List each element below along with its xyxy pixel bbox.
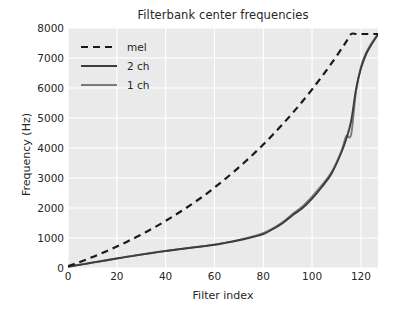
chart-title: Filterbank center frequencies bbox=[68, 8, 378, 22]
plot-area: mel2 ch1 ch bbox=[68, 28, 378, 268]
y-tick-label: 0 bbox=[6, 262, 64, 274]
legend-label: mel bbox=[127, 41, 147, 53]
legend-line-icon bbox=[80, 60, 118, 72]
x-tick-label: 20 bbox=[110, 270, 123, 282]
y-tick-label: 4000 bbox=[6, 142, 64, 154]
figure: Filterbank center frequencies Frequency … bbox=[0, 0, 395, 320]
y-tick-label: 2000 bbox=[6, 202, 64, 214]
y-tick-label: 7000 bbox=[6, 52, 64, 64]
legend-line-icon bbox=[80, 79, 118, 91]
x-tick-label: 100 bbox=[302, 270, 322, 282]
y-tick-label: 6000 bbox=[6, 82, 64, 94]
y-tick-label: 1000 bbox=[6, 232, 64, 244]
legend-item: 1 ch bbox=[80, 75, 176, 94]
x-tick-label: 120 bbox=[351, 270, 371, 282]
x-axis-tick-labels: 020406080100120 bbox=[68, 270, 378, 286]
x-axis-label: Filter index bbox=[68, 289, 378, 302]
y-axis-tick-labels: 010002000300040005000600070008000 bbox=[0, 28, 64, 268]
legend: mel2 ch1 ch bbox=[76, 34, 180, 96]
x-tick-label: 80 bbox=[257, 270, 270, 282]
x-tick-label: 0 bbox=[65, 270, 72, 282]
legend-line-icon bbox=[80, 41, 118, 53]
y-tick-label: 5000 bbox=[6, 112, 64, 124]
legend-label: 2 ch bbox=[127, 60, 149, 72]
x-tick-label: 60 bbox=[208, 270, 221, 282]
y-tick-label: 8000 bbox=[6, 22, 64, 34]
legend-item: 2 ch bbox=[80, 56, 176, 75]
legend-label: 1 ch bbox=[127, 79, 149, 91]
x-tick-label: 40 bbox=[159, 270, 172, 282]
y-tick-label: 3000 bbox=[6, 172, 64, 184]
legend-item: mel bbox=[80, 37, 176, 56]
